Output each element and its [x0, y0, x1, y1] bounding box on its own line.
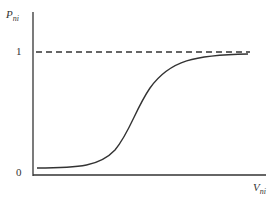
y-tick-one: 1 [16, 45, 22, 57]
logistic-curve [37, 54, 248, 168]
x-axis-label: Vni [253, 181, 266, 196]
y-tick-zero: 0 [16, 166, 22, 178]
plot-area [0, 0, 278, 202]
y-axis-label: Pni [6, 8, 19, 23]
